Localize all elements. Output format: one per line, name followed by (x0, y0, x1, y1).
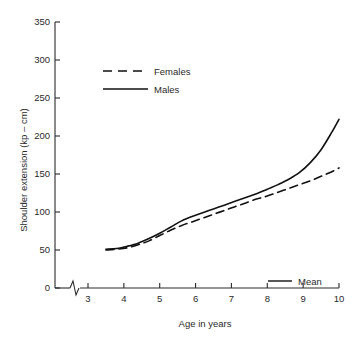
x-tick-label: 9 (300, 293, 305, 304)
y-tick-label: 300 (34, 54, 50, 65)
x-tick-label: 7 (229, 293, 234, 304)
x-tick-label: 3 (85, 293, 90, 304)
x-tick-label: 10 (334, 293, 345, 304)
legend-label-males: Males (154, 84, 180, 95)
y-axis-title: Shoulder extension (kp – cm) (18, 108, 29, 232)
chart-background (0, 0, 362, 344)
x-tick-label: 4 (121, 293, 126, 304)
x-tick-label: 6 (193, 293, 198, 304)
y-tick-label: 250 (34, 92, 50, 103)
y-tick-label: 0 (45, 282, 50, 293)
x-tick-label: 8 (265, 293, 270, 304)
x-tick-label: 5 (157, 293, 162, 304)
shoulder-extension-line-chart: 050100150200250300350 345678910 Females … (0, 0, 362, 344)
y-tick-label: 100 (34, 206, 50, 217)
y-tick-label: 50 (39, 244, 50, 255)
y-tick-label: 150 (34, 168, 50, 179)
x-axis-title: Age in years (179, 318, 232, 329)
y-tick-label: 200 (34, 130, 50, 141)
chart-container: 050100150200250300350 345678910 Females … (0, 0, 362, 344)
mean-label: Mean (298, 276, 322, 287)
y-tick-label: 350 (34, 16, 50, 27)
legend-label-females: Females (154, 66, 191, 77)
